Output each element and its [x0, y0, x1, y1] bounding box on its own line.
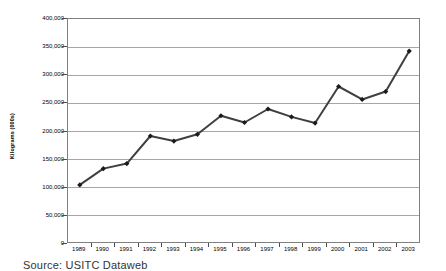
- y-tick-label: 50,000: [22, 212, 64, 218]
- series-line: [80, 51, 409, 185]
- y-tick-label: 150,000: [22, 156, 64, 162]
- data-series-layer: [68, 19, 421, 244]
- data-point-marker: [289, 114, 294, 119]
- plot-area: [67, 18, 420, 243]
- data-point-marker: [171, 138, 176, 143]
- y-tick-label: 0: [22, 240, 64, 246]
- y-tick-label: 200,000: [22, 128, 64, 134]
- y-tick-label: 400,000: [22, 15, 64, 21]
- y-tick-label: 100,000: [22, 184, 64, 190]
- y-axis-title-label: Kilograms (000s): [9, 96, 15, 176]
- source-note: Source: USITC Dataweb: [23, 259, 148, 271]
- x-tick-label: 2003: [393, 246, 423, 252]
- y-axis-title: Kilograms (000s): [9, 16, 15, 96]
- y-tick-label: 350,000: [22, 43, 64, 49]
- y-tick-label: 250,000: [22, 99, 64, 105]
- y-tick-mark: [62, 243, 67, 244]
- y-tick-label: 300,000: [22, 71, 64, 77]
- line-chart-figure: Kilograms (000s) 050,000100,000150,00020…: [0, 0, 446, 271]
- series-marker-group: [77, 48, 412, 187]
